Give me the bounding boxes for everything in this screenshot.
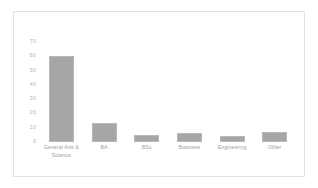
y-axis-tick-70: 70	[30, 39, 36, 44]
x-axis-label-ba: BA	[83, 144, 126, 159]
x-axis-label-engineering: Engineering	[211, 144, 254, 159]
y-axis-tick-0: 0	[33, 139, 36, 144]
bar-engineering	[220, 136, 245, 142]
bar-general-arts-science	[49, 56, 74, 142]
bar-slot	[253, 42, 296, 142]
plot-area: 70 60 50 40 30 20 10 0	[40, 42, 296, 142]
y-axis-tick-60: 60	[30, 54, 36, 59]
chart-frame: 70 60 50 40 30 20 10 0	[13, 11, 305, 177]
x-axis-labels: General Arts & Science BA BSc Business E…	[40, 144, 296, 159]
y-axis-tick-50: 50	[30, 68, 36, 73]
bar-series	[40, 42, 296, 142]
y-axis-tick-20: 20	[30, 111, 36, 116]
bar-slot	[83, 42, 126, 142]
bar-slot	[168, 42, 211, 142]
y-axis-tick-40: 40	[30, 82, 36, 87]
bar-ba	[92, 123, 117, 142]
bar-business	[177, 133, 202, 142]
x-axis-label-general-arts-science: General Arts & Science	[40, 144, 83, 159]
bar-slot	[125, 42, 168, 142]
bar-slot	[211, 42, 254, 142]
bar-slot	[40, 42, 83, 142]
x-axis-label-bsc: BSc	[125, 144, 168, 159]
x-axis-label-business: Business	[168, 144, 211, 159]
x-axis-label-other: Other	[253, 144, 296, 159]
bar-other	[262, 132, 287, 142]
y-axis-tick-10: 10	[30, 125, 36, 130]
y-axis-tick-30: 30	[30, 97, 36, 102]
bar-bsc	[134, 135, 159, 142]
